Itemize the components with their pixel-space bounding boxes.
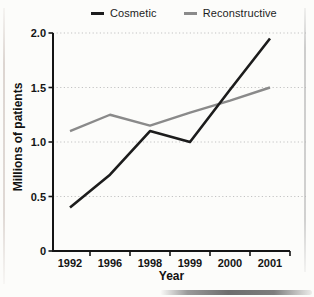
legend-item-cosmetic: Cosmetic bbox=[91, 7, 157, 19]
y-tick-label: 1.5 bbox=[31, 82, 46, 94]
x-axis-title: Year bbox=[53, 269, 290, 283]
figure-plastic-surgery-chart: Cosmetic Reconstructive 00.51.01.52.0199… bbox=[0, 0, 314, 297]
reconstructive-line-swatch bbox=[184, 12, 197, 15]
x-tick-label-2000: 2000 bbox=[218, 257, 242, 269]
legend-label-reconstructive: Reconstructive bbox=[203, 7, 277, 19]
y-tick-label: 2.0 bbox=[31, 27, 46, 39]
cosmetic-line-swatch bbox=[91, 12, 104, 15]
chart-legend: Cosmetic Reconstructive bbox=[91, 7, 277, 19]
y-tick-label: 0 bbox=[40, 245, 46, 257]
scan-shadow-artifact bbox=[160, 290, 312, 295]
page-edge-left bbox=[3, 8, 5, 284]
page-edge-right bbox=[304, 8, 306, 272]
y-axis-title: Millions of patients bbox=[11, 77, 25, 197]
x-tick-label-1999: 1999 bbox=[178, 257, 202, 269]
x-tick-label-1998: 1998 bbox=[138, 257, 162, 269]
y-tick-label: 1.0 bbox=[31, 136, 46, 148]
line-chart: 00.51.01.52.0199219961998199920002001 bbox=[0, 0, 314, 297]
series-line-reconstructive bbox=[70, 88, 270, 132]
series-line-cosmetic bbox=[70, 38, 270, 207]
y-tick-label: 0.5 bbox=[31, 191, 46, 203]
x-tick-label-1996: 1996 bbox=[98, 257, 122, 269]
legend-label-cosmetic: Cosmetic bbox=[110, 7, 157, 19]
legend-item-reconstructive: Reconstructive bbox=[184, 7, 277, 19]
x-tick-label-2001: 2001 bbox=[258, 257, 282, 269]
x-tick-label-1992: 1992 bbox=[58, 257, 82, 269]
